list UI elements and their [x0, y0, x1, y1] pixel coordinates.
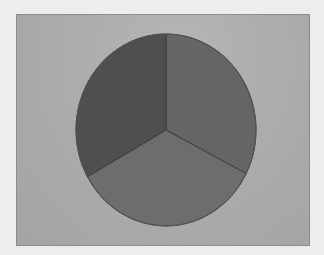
pie-chart: [0, 0, 324, 255]
pie-slices: [76, 34, 256, 226]
chart-canvas: [0, 0, 324, 255]
